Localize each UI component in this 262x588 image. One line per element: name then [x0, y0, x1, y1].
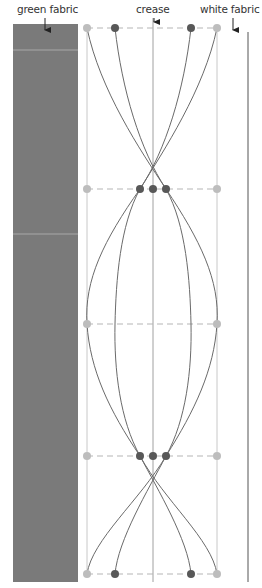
guide-lines — [87, 18, 248, 582]
dashed-rows — [87, 28, 217, 574]
fold-diagram — [0, 0, 262, 588]
fold-curves — [87, 28, 218, 574]
intersection-dots — [83, 24, 221, 578]
green-fabric-panel — [13, 24, 78, 582]
